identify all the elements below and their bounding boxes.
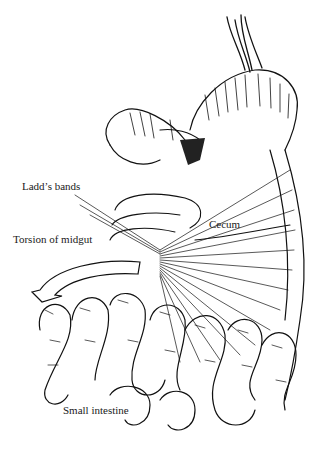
label-torsion-of-midgut: Torsion of midgut bbox=[13, 234, 92, 245]
label-cecum: Cecum bbox=[209, 219, 240, 230]
ladds-band-mass bbox=[180, 138, 205, 165]
label-ladds-bands: Ladd’s bands bbox=[22, 181, 80, 192]
anatomical-illustration: Ladd’s bands Torsion of midgut Cecum Sma… bbox=[0, 0, 333, 457]
label-small-intestine: Small intestine bbox=[63, 405, 129, 416]
mesenteric-vessels bbox=[227, 15, 262, 72]
colon-outline bbox=[106, 70, 304, 400]
colon-hatching bbox=[130, 74, 289, 140]
torsion-arrow-icon bbox=[32, 261, 140, 302]
intestine-drawing bbox=[0, 0, 333, 457]
